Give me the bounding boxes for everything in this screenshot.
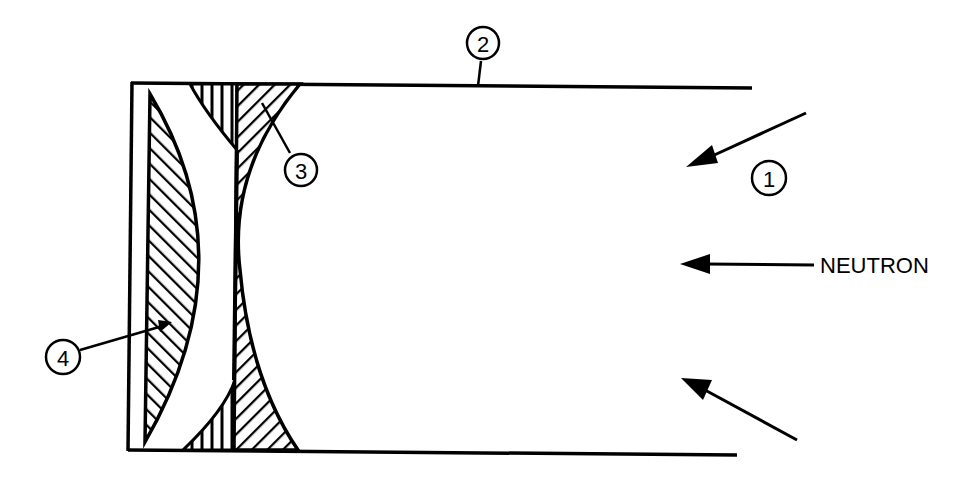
neutron-arrow-lower: [681, 378, 797, 440]
callout-2: 2: [467, 27, 499, 86]
vertical-hatched-layer: [190, 84, 237, 150]
neutron-arrow-upper: [686, 113, 806, 167]
svg-text:3: 3: [295, 159, 307, 184]
detector-diagram: 2 3 4 1 NEUTRON: [0, 0, 977, 485]
lens-element-3: [234, 84, 300, 450]
svg-text:4: 4: [57, 346, 69, 371]
svg-text:2: 2: [477, 32, 489, 57]
housing-tube: [128, 82, 752, 455]
neutron-label: NEUTRON: [820, 253, 929, 278]
callout-3: 3: [262, 103, 317, 186]
neutron-arrow-middle: [680, 254, 814, 274]
lens-element-4: [145, 94, 199, 442]
vertical-hatched-layer-bottom: [183, 380, 235, 450]
callout-1: 1: [752, 161, 786, 195]
svg-text:1: 1: [763, 167, 775, 192]
